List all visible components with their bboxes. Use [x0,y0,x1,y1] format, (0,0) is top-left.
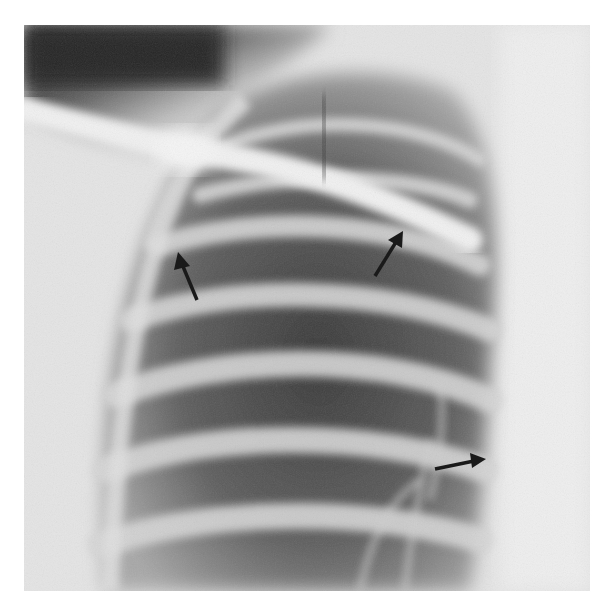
xray-image [24,25,590,591]
xray-rendering [24,25,590,591]
